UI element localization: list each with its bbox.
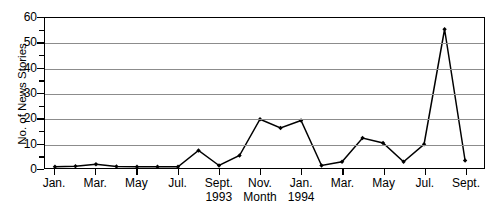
data-point-2 — [94, 162, 98, 166]
y-tick-minor-5 — [39, 156, 44, 157]
line-chart: Coverage in the News Media No. of News S… — [0, 0, 490, 206]
gridline-30 — [45, 94, 484, 95]
y-tick-minor-45 — [39, 55, 44, 56]
data-point-3 — [114, 164, 118, 168]
x-tick-label-10: Sept. — [452, 176, 480, 190]
y-tick-minor-25 — [39, 106, 44, 107]
x-tick-8 — [219, 169, 220, 175]
x-tick-6 — [178, 169, 179, 175]
y-tick-label-20: 20 — [11, 112, 37, 124]
data-point-20 — [463, 158, 467, 162]
data-point-19 — [442, 27, 446, 31]
y-tick-minor-35 — [39, 80, 44, 81]
x-tick-14 — [342, 169, 343, 175]
x-tick-label-3: Jul. — [168, 176, 187, 190]
y-tick-major-20 — [37, 118, 44, 119]
y-tick-minor-55 — [39, 30, 44, 31]
data-point-5 — [155, 165, 159, 168]
y-axis-tick-labels: 0102030405060 — [11, 0, 37, 206]
x-tick-10 — [260, 169, 261, 175]
x-tick-label-1: Mar. — [84, 176, 107, 190]
x-tick-18 — [425, 169, 426, 175]
series-line — [55, 29, 465, 166]
y-tick-label-60: 60 — [11, 11, 37, 23]
y-tick-label-30: 30 — [11, 87, 37, 99]
x-tick-label-9: Jul. — [415, 176, 434, 190]
x-tick-label-7: Mar. — [331, 176, 354, 190]
y-tick-major-10 — [37, 144, 44, 145]
data-point-1 — [73, 164, 77, 168]
data-point-4 — [135, 165, 139, 168]
data-point-13 — [319, 163, 323, 167]
data-point-0 — [53, 165, 57, 168]
gridline-50 — [45, 43, 484, 44]
y-tick-label-40: 40 — [11, 62, 37, 74]
x-tick-20 — [466, 169, 467, 175]
x-tick-label-2: May — [125, 176, 148, 190]
gridline-40 — [45, 69, 484, 70]
y-tick-label-10: 10 — [11, 138, 37, 150]
x-tick-label-5: Nov. — [248, 176, 272, 190]
x-tick-12 — [301, 169, 302, 175]
x-year-label-1993: 1993 — [205, 190, 232, 204]
x-year-label-1994: 1994 — [288, 190, 315, 204]
y-tick-minor-15 — [39, 131, 44, 132]
x-tick-label-0: Jan. — [43, 176, 66, 190]
plot-area — [44, 17, 485, 169]
y-tick-major-60 — [37, 17, 44, 18]
x-tick-0 — [54, 169, 55, 175]
x-tick-16 — [384, 169, 385, 175]
x-tick-label-4: Sept. — [205, 176, 233, 190]
y-tick-major-40 — [37, 68, 44, 69]
x-tick-label-8: May — [372, 176, 395, 190]
x-tick-4 — [136, 169, 137, 175]
gridline-10 — [45, 145, 484, 146]
y-tick-major-50 — [37, 42, 44, 43]
y-tick-major-30 — [37, 93, 44, 94]
gridline-20 — [45, 119, 484, 120]
x-axis-title: Month — [243, 190, 276, 204]
y-tick-major-0 — [37, 169, 44, 170]
x-tick-label-6: Jan. — [290, 176, 313, 190]
data-point-11 — [278, 126, 282, 130]
y-tick-label-0: 0 — [11, 163, 37, 175]
x-tick-2 — [95, 169, 96, 175]
y-tick-label-50: 50 — [11, 36, 37, 48]
